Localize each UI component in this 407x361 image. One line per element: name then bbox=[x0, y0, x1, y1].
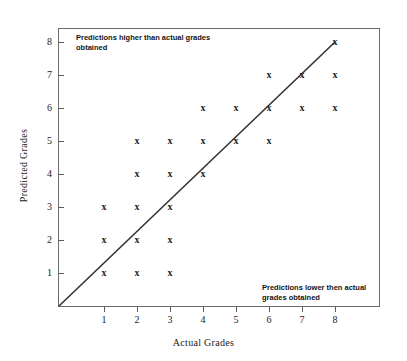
data-point: x bbox=[297, 102, 308, 113]
annotation-above-line: Predictions higher than actual grades ob… bbox=[76, 33, 216, 53]
x-axis-title: Actual Grades bbox=[0, 337, 407, 348]
data-point: x bbox=[165, 267, 176, 278]
y-axis-title: Predicted Grades bbox=[18, 96, 29, 236]
x-tick-label-3: 3 bbox=[160, 314, 180, 325]
data-point: x bbox=[99, 267, 110, 278]
data-point: x bbox=[132, 168, 143, 179]
y-tick-4 bbox=[58, 174, 64, 175]
y-tick-5 bbox=[58, 141, 64, 142]
data-point: x bbox=[165, 168, 176, 179]
x-tick-2 bbox=[137, 307, 138, 312]
y-tick-label-3: 3 bbox=[38, 201, 52, 212]
data-point: x bbox=[330, 36, 341, 47]
data-point: x bbox=[132, 201, 143, 212]
y-tick-label-8: 8 bbox=[38, 36, 52, 47]
data-point: x bbox=[165, 234, 176, 245]
data-point: x bbox=[264, 102, 275, 113]
data-point: x bbox=[99, 201, 110, 212]
y-tick-label-7: 7 bbox=[38, 69, 52, 80]
data-point: x bbox=[330, 102, 341, 113]
data-point: x bbox=[165, 201, 176, 212]
data-point: x bbox=[132, 234, 143, 245]
data-point: x bbox=[198, 135, 209, 146]
data-point: x bbox=[231, 102, 242, 113]
x-tick-6 bbox=[269, 307, 270, 312]
data-point: x bbox=[231, 135, 242, 146]
data-point: x bbox=[198, 168, 209, 179]
data-point: x bbox=[165, 135, 176, 146]
x-tick-8 bbox=[335, 307, 336, 312]
annotation-below-line: Predictions lower then actual grades obt… bbox=[262, 283, 380, 303]
data-point: x bbox=[330, 69, 341, 80]
x-tick-label-6: 6 bbox=[259, 314, 279, 325]
y-tick-1 bbox=[58, 273, 64, 274]
x-tick-label-4: 4 bbox=[193, 314, 213, 325]
y-tick-label-2: 2 bbox=[38, 234, 52, 245]
x-tick-7 bbox=[302, 307, 303, 312]
x-tick-3 bbox=[170, 307, 171, 312]
data-point: x bbox=[264, 135, 275, 146]
data-point: x bbox=[264, 69, 275, 80]
data-point: x bbox=[132, 267, 143, 278]
data-point: x bbox=[297, 69, 308, 80]
x-tick-label-8: 8 bbox=[325, 314, 345, 325]
data-point: x bbox=[132, 135, 143, 146]
x-tick-1 bbox=[104, 307, 105, 312]
data-point: x bbox=[198, 102, 209, 113]
scatter-chart: 1234567812345678 xxxxxxxxxxxxxxxxxxxxxxx… bbox=[0, 0, 407, 361]
x-tick-5 bbox=[236, 307, 237, 312]
y-tick-6 bbox=[58, 108, 64, 109]
y-tick-3 bbox=[58, 207, 64, 208]
x-tick-4 bbox=[203, 307, 204, 312]
y-tick-label-4: 4 bbox=[38, 168, 52, 179]
x-tick-label-7: 7 bbox=[292, 314, 312, 325]
y-tick-7 bbox=[58, 75, 64, 76]
y-tick-label-5: 5 bbox=[38, 135, 52, 146]
x-tick-label-5: 5 bbox=[226, 314, 246, 325]
y-tick-2 bbox=[58, 240, 64, 241]
data-point: x bbox=[99, 234, 110, 245]
x-tick-label-1: 1 bbox=[94, 314, 114, 325]
x-tick-label-2: 2 bbox=[127, 314, 147, 325]
y-tick-label-6: 6 bbox=[38, 102, 52, 113]
y-tick-label-1: 1 bbox=[38, 267, 52, 278]
y-tick-8 bbox=[58, 42, 64, 43]
